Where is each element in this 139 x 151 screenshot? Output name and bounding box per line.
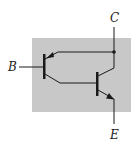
pnp-base-bar: [43, 54, 46, 79]
collector-label: C: [110, 11, 119, 25]
circuit-diagram: C B E: [0, 0, 139, 151]
emitter-label: E: [109, 128, 119, 142]
base-label: B: [7, 60, 17, 74]
